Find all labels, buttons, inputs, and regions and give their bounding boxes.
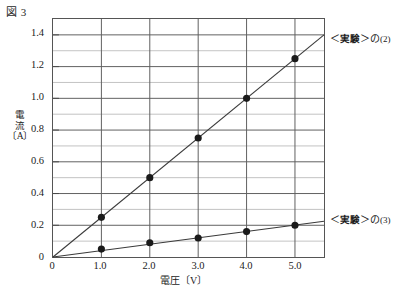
series-label-experiment-3: ＜実験＞の(3) <box>330 211 391 226</box>
series-line-experiment-2 <box>53 35 324 257</box>
y-tick-label-0.6: 0.6 <box>8 155 44 166</box>
data-point <box>291 55 298 62</box>
series-label-experiment-2: ＜実験＞の(2) <box>330 30 391 45</box>
data-point <box>243 228 250 235</box>
data-point <box>291 222 298 229</box>
series-label-suffix-2: ＞の <box>360 33 380 44</box>
y-axis-title-char1: 電 <box>7 110 33 121</box>
y-tick-label-0.4: 0.4 <box>8 187 44 198</box>
series-label-suffix-3: ＞の <box>360 214 380 225</box>
data-point <box>146 239 153 246</box>
x-tick-label-3.0: 3.0 <box>184 260 212 271</box>
series-label-bold-3: 実験 <box>340 215 360 225</box>
x-axis-title: 電圧〔V〕 <box>160 272 207 287</box>
data-point <box>195 234 202 241</box>
series-label-prefix-3: ＜ <box>330 214 340 225</box>
figure-container: 図 3 電 流 〔A〕 電圧〔V〕 0 0.2 0.4 0.6 0.8 1.0 … <box>0 0 394 292</box>
x-tick-label-0: 0 <box>38 260 66 271</box>
data-layer <box>53 19 324 257</box>
y-tick-label-1.0: 1.0 <box>8 91 44 102</box>
y-tick-label-0.2: 0.2 <box>8 219 44 230</box>
y-tick-label-1.2: 1.2 <box>8 59 44 70</box>
series-markers-experiment-3 <box>98 222 299 253</box>
figure-caption: 図 3 <box>6 3 27 19</box>
y-tick-label-0.8: 0.8 <box>8 123 44 134</box>
y-tick-label-1.4: 1.4 <box>8 27 44 38</box>
x-tick-label-5.0: 5.0 <box>281 260 309 271</box>
data-point <box>98 245 105 252</box>
data-point <box>195 134 202 141</box>
data-point <box>98 214 105 221</box>
series-label-index-2: (2) <box>380 34 391 44</box>
series-line-experiment-3 <box>53 221 324 257</box>
x-tick-label-1.0: 1.0 <box>86 260 114 271</box>
data-point <box>146 174 153 181</box>
plot-area <box>52 18 325 258</box>
data-point <box>243 95 250 102</box>
series-label-bold-2: 実験 <box>340 34 360 44</box>
series-label-index-3: (3) <box>380 215 391 225</box>
x-tick-label-2.0: 2.0 <box>135 260 163 271</box>
series-label-prefix-2: ＜ <box>330 33 340 44</box>
x-tick-label-4.0: 4.0 <box>232 260 260 271</box>
